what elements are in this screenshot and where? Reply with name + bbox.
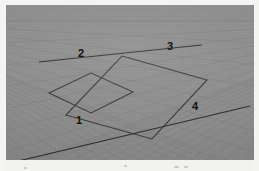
scan-artifact-strip xyxy=(6,160,254,171)
grid-line xyxy=(89,41,254,160)
grid-line xyxy=(6,41,110,160)
grid-line xyxy=(6,41,7,160)
scene-svg xyxy=(6,5,254,160)
scan-speck xyxy=(24,167,27,169)
callout-label-1: 1 xyxy=(76,115,82,126)
scan-speck xyxy=(124,165,127,167)
scan-speck xyxy=(184,166,188,168)
axis-line-secondary xyxy=(39,45,202,62)
grid-line xyxy=(6,41,89,160)
callout-label-4: 4 xyxy=(192,101,198,112)
scan-speck xyxy=(174,166,179,168)
viewport-frame: 1234 xyxy=(0,0,259,171)
callout-label-2: 2 xyxy=(78,48,84,59)
callout-label-3: 3 xyxy=(167,41,173,52)
viewport-canvas[interactable]: 1234 xyxy=(6,5,254,160)
shape-layer xyxy=(49,56,207,139)
grid-line xyxy=(6,41,28,160)
